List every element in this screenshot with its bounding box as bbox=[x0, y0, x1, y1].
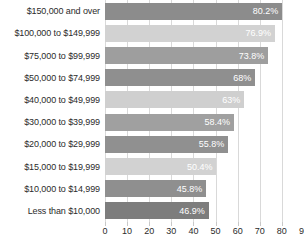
plot-area: 80.2%76.9%73.8%68%63%58.4%55.8%50.4%45.8… bbox=[105, 0, 304, 222]
x-tick-label: 50 bbox=[211, 226, 221, 236]
category-label: $10,000 to $14,999 bbox=[0, 178, 105, 200]
x-tick-label: 60 bbox=[233, 226, 243, 236]
bar-value-label: 55.8% bbox=[199, 139, 225, 149]
bar-row: 45.8% bbox=[105, 178, 304, 200]
x-tick-label: 30 bbox=[166, 226, 176, 236]
bar-row: 63% bbox=[105, 89, 304, 111]
bar-row: 55.8% bbox=[105, 133, 304, 155]
bar[interactable]: 46.9% bbox=[105, 202, 209, 219]
bar-value-label: 46.9% bbox=[179, 206, 205, 216]
category-label: $150,000 and over bbox=[0, 0, 105, 22]
x-tick-label: 0 bbox=[102, 226, 107, 236]
category-label: Less than $10,000 bbox=[0, 200, 105, 222]
bar-value-label: 63% bbox=[222, 95, 240, 105]
bar[interactable]: 58.4% bbox=[105, 114, 234, 131]
bar-value-label: 45.8% bbox=[177, 184, 203, 194]
bar[interactable]: 76.9% bbox=[105, 25, 275, 42]
bar-chart: $150,000 and over$100,000 to $149,999$75… bbox=[0, 0, 304, 244]
bar-value-label: 50.4% bbox=[187, 162, 213, 172]
category-label: $75,000 to $99,999 bbox=[0, 44, 105, 66]
x-tick-label: 70 bbox=[255, 226, 265, 236]
bar-value-label: 80.2% bbox=[253, 6, 279, 16]
x-axis: 0102030405060708090 bbox=[105, 222, 304, 244]
bar-row: 50.4% bbox=[105, 155, 304, 177]
bar[interactable]: 50.4% bbox=[105, 158, 216, 175]
bar-value-label: 68% bbox=[233, 73, 251, 83]
x-tick-label: 20 bbox=[144, 226, 154, 236]
bar-value-label: 73.8% bbox=[239, 51, 265, 61]
x-tick-label: 10 bbox=[122, 226, 132, 236]
bar-row: 68% bbox=[105, 67, 304, 89]
bar-value-label: 76.9% bbox=[246, 28, 272, 38]
bar-row: 76.9% bbox=[105, 22, 304, 44]
bar-series: 80.2%76.9%73.8%68%63%58.4%55.8%50.4%45.8… bbox=[105, 0, 304, 222]
bar-row: 80.2% bbox=[105, 0, 304, 22]
bar[interactable]: 45.8% bbox=[105, 180, 206, 197]
category-axis: $150,000 and over$100,000 to $149,999$75… bbox=[0, 0, 105, 222]
category-label: $40,000 to $49,999 bbox=[0, 89, 105, 111]
x-tick-label: 80 bbox=[277, 226, 287, 236]
bar[interactable]: 55.8% bbox=[105, 136, 228, 153]
bar[interactable]: 80.2% bbox=[105, 3, 282, 20]
category-label: $100,000 to $149,999 bbox=[0, 22, 105, 44]
category-label: $15,000 to $19,999 bbox=[0, 155, 105, 177]
bar[interactable]: 73.8% bbox=[105, 47, 268, 64]
bar[interactable]: 63% bbox=[105, 91, 244, 108]
category-label: $50,000 to $74,999 bbox=[0, 67, 105, 89]
bar[interactable]: 68% bbox=[105, 69, 255, 86]
x-tick-label: 90 bbox=[299, 226, 304, 236]
x-tick-label: 40 bbox=[188, 226, 198, 236]
bar-value-label: 58.4% bbox=[205, 117, 231, 127]
bar-row: 58.4% bbox=[105, 111, 304, 133]
category-label: $20,000 to $29,999 bbox=[0, 133, 105, 155]
bar-row: 46.9% bbox=[105, 200, 304, 222]
category-label: $30,000 to $39,999 bbox=[0, 111, 105, 133]
bar-row: 73.8% bbox=[105, 44, 304, 66]
